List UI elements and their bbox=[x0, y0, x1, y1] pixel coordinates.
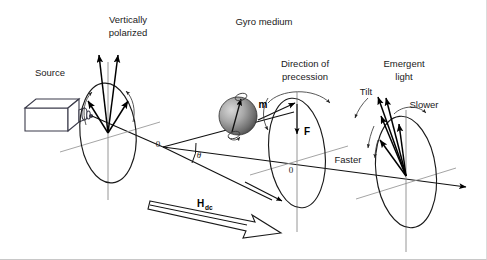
label-hdc: H dc bbox=[197, 198, 213, 211]
label-direction-of-precession-1: Direction of bbox=[281, 58, 329, 69]
label-source: Source bbox=[35, 67, 65, 78]
figure-canvas: Source Vertically polarized Gyro medium … bbox=[0, 0, 487, 260]
label-vertically-polarized-2: polarized bbox=[109, 27, 148, 38]
label-origin-middle: 0 bbox=[289, 165, 294, 175]
precession-ellipse bbox=[245, 92, 348, 232]
label-hdc-main: H bbox=[197, 198, 204, 209]
optical-axis bbox=[92, 116, 466, 187]
polarization-vectors-left bbox=[84, 55, 134, 133]
label-emergent-light-1: Emergent bbox=[383, 58, 425, 69]
label-origin-left: 0 bbox=[156, 139, 161, 149]
label-m-vector: m bbox=[259, 99, 268, 110]
gyro-sphere bbox=[219, 92, 257, 140]
label-tilt: Tilt bbox=[360, 86, 373, 97]
label-faster: Faster bbox=[335, 154, 362, 165]
label-hdc-subscript: dc bbox=[205, 204, 213, 211]
hdc-arrow bbox=[148, 201, 281, 238]
diagram-svg: Source Vertically polarized Gyro medium … bbox=[0, 0, 487, 260]
label-vertically-polarized-1: Vertically bbox=[109, 14, 147, 25]
label-theta: θ bbox=[197, 150, 202, 160]
label-f-vector: F bbox=[304, 126, 310, 137]
label-direction-of-precession-2: precession bbox=[282, 71, 328, 82]
label-gyro-medium: Gyro medium bbox=[235, 16, 292, 27]
label-slower: Slower bbox=[409, 99, 438, 110]
label-emergent-light-2: light bbox=[395, 71, 413, 82]
